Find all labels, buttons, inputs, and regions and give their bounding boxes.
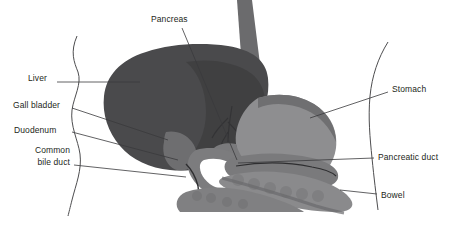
label-pancreatic-duct: Pancreatic duct bbox=[378, 152, 438, 163]
label-liver: Liver bbox=[28, 73, 47, 84]
label-stomach: Stomach bbox=[392, 84, 426, 95]
body-outline-right-path bbox=[369, 42, 388, 210]
label-common-bile-duct-line1: Common bbox=[14, 145, 70, 156]
leader-line-bowel bbox=[340, 190, 377, 194]
label-gall-bladder: Gall bladder bbox=[13, 100, 60, 111]
anatomy-diagram: Pancreas Liver Gall bladder Duodenum Com… bbox=[0, 0, 457, 227]
label-duodenum: Duodenum bbox=[14, 125, 56, 136]
label-pancreas: Pancreas bbox=[151, 14, 188, 25]
leader-line-stomach bbox=[310, 92, 388, 118]
label-bowel: Bowel bbox=[381, 190, 405, 201]
body-outline-left-path bbox=[68, 36, 80, 216]
label-common-bile-duct-line2: bile duct bbox=[14, 157, 70, 168]
